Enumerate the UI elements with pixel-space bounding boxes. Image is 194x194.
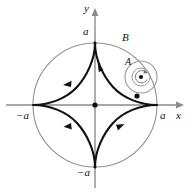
- cusp-dot-bottom: [94, 166, 97, 169]
- big-circle-label-B: B: [122, 32, 129, 43]
- small-circle-label-A: A: [125, 57, 131, 67]
- tick-label-left: −a: [16, 110, 29, 121]
- x-axis-arrowhead-icon: [176, 102, 184, 109]
- tick-label-top: a: [83, 26, 89, 37]
- trace-point-dot: [134, 93, 139, 98]
- y-axis-arrowhead-icon: [92, 8, 99, 16]
- direction-arrow-upper-left-icon: [63, 81, 72, 87]
- tick-label-right: a: [160, 110, 166, 121]
- tick-label-bottom: −a: [77, 167, 90, 178]
- x-axis-label: x: [176, 110, 181, 121]
- y-axis-label: y: [84, 3, 89, 14]
- rolling-circle-center-dot: [139, 75, 143, 79]
- origin-dot: [92, 102, 97, 107]
- astroid-figure-svg: [0, 0, 194, 194]
- figure-canvas: y x a −a −a a B A: [0, 0, 194, 194]
- cusp-dot-top: [94, 42, 97, 45]
- direction-arrow-lower-right-icon: [116, 124, 125, 131]
- direction-arrow-lower-left-icon: [64, 123, 72, 130]
